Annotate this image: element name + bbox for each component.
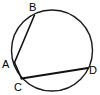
- point-label-b: B: [29, 1, 36, 13]
- point-label-d: D: [89, 64, 97, 76]
- point-label-c: C: [14, 81, 22, 93]
- point-label-a: A: [2, 58, 10, 70]
- chord-ab: [15, 15, 35, 63]
- geometry-diagram: A B C D: [0, 0, 100, 95]
- segment-ac: [15, 63, 22, 79]
- chord-cd: [22, 68, 89, 79]
- circle-geometry-figure: A B C D: [0, 0, 100, 95]
